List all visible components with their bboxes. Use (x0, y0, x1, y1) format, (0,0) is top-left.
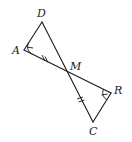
segment-RC (93, 93, 111, 122)
label-C: C (89, 125, 98, 138)
label-M: M (69, 60, 82, 73)
label-R: R (113, 84, 122, 97)
geometry-figure: D A M R C (0, 0, 132, 142)
tick-marks-MC (77, 97, 85, 102)
segment-AR (24, 50, 111, 93)
segment-DA (24, 22, 42, 50)
label-A: A (11, 44, 20, 57)
label-D: D (36, 7, 46, 20)
